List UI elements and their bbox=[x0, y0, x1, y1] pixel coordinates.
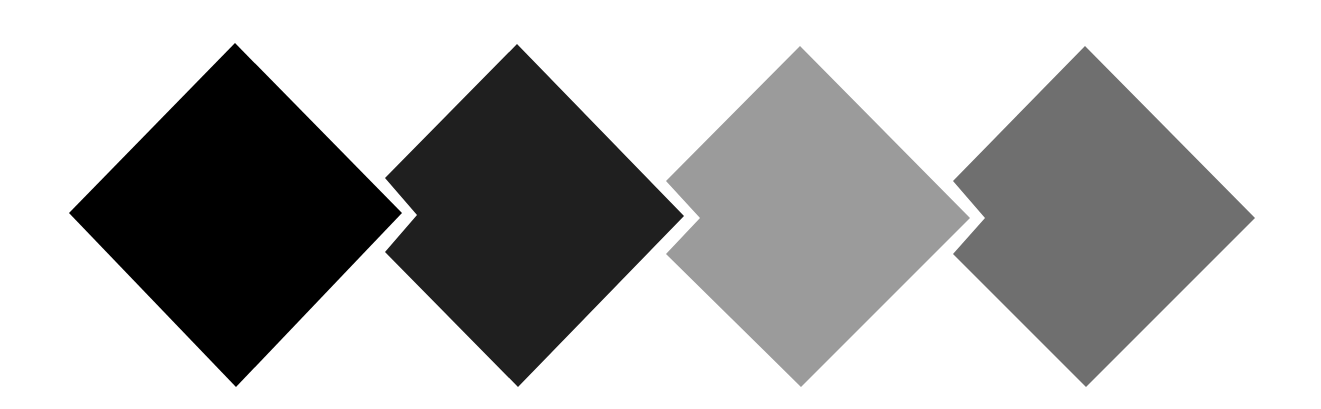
diamond-row-svg bbox=[0, 0, 1321, 409]
diamond-row-graphic: Black diamond Dark charcoal diamond Ligh… bbox=[0, 0, 1321, 409]
